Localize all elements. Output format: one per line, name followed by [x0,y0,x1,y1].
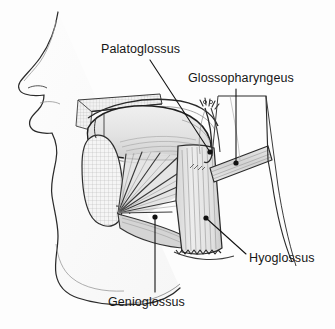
label-hyoglossus: Hyoglossus [249,252,315,265]
label-genioglossus: Genioglossus [108,296,185,309]
dot-glossopharyngeus [233,160,238,165]
anatomy-figure: Palatoglossus Glossopharyngeus Hyoglossu… [0,0,335,329]
dot-hyoglossus [203,215,208,220]
label-palatoglossus: Palatoglossus [101,43,180,56]
glossopharyngeus-muscle [210,146,272,182]
dot-palatoglossus [207,149,212,154]
dot-genioglossus [152,214,157,219]
pharyngeal-wall [212,96,296,266]
label-glossopharyngeus: Glossopharyngeus [188,72,294,85]
